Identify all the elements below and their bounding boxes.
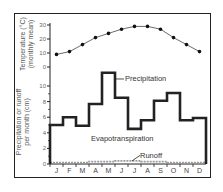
month-label: J bbox=[120, 167, 124, 174]
climate-chart: 01020300246810JFMAMJJASONDPrecipitationE… bbox=[0, 0, 223, 192]
temperature-tick-label: 30 bbox=[39, 22, 46, 28]
temperature-tick-label: 10 bbox=[39, 50, 46, 56]
temperature-tick-label: 0 bbox=[43, 64, 47, 70]
month-label: N bbox=[184, 167, 189, 174]
temperature-point bbox=[133, 25, 137, 29]
temperature-point bbox=[198, 50, 202, 54]
runoff-annotation: Runoff bbox=[140, 151, 163, 160]
temperature-point bbox=[107, 32, 111, 36]
month-label: A bbox=[93, 167, 98, 174]
precipitation-step-line bbox=[50, 73, 206, 164]
temperature-point bbox=[55, 53, 59, 57]
month-label: S bbox=[158, 167, 163, 174]
month-label: A bbox=[145, 167, 150, 174]
temperature-point bbox=[146, 25, 150, 29]
runoff-line bbox=[50, 161, 206, 163]
precipitation-tick-label: 10 bbox=[39, 83, 46, 89]
month-label: J bbox=[133, 167, 137, 174]
temperature-point bbox=[94, 36, 98, 40]
temperature-point bbox=[120, 27, 124, 31]
precipitation-annotation: Precipitation bbox=[125, 74, 166, 83]
temperature-point bbox=[68, 50, 72, 54]
evapotranspiration-annotation: Evapotranspiration bbox=[91, 134, 154, 143]
temperature-point bbox=[159, 27, 163, 31]
precipitation-tick-label: 6 bbox=[43, 114, 47, 120]
runoff-leader bbox=[132, 155, 140, 160]
month-label: F bbox=[67, 167, 71, 174]
temperature-point bbox=[185, 43, 189, 47]
precipitation-tick-label: 0 bbox=[43, 161, 47, 167]
precipitation-tick-label: 4 bbox=[43, 130, 47, 136]
temperature-tick-label: 20 bbox=[39, 36, 46, 42]
month-label: J bbox=[55, 167, 59, 174]
temperature-point bbox=[81, 43, 85, 47]
precipitation-tick-label: 8 bbox=[43, 99, 47, 105]
month-label: O bbox=[171, 167, 177, 174]
precipitation-tick-label: 2 bbox=[43, 145, 47, 151]
temperature-line bbox=[57, 26, 200, 54]
temperature-point bbox=[172, 36, 176, 40]
month-label: M bbox=[80, 167, 86, 174]
month-label: D bbox=[197, 167, 202, 174]
month-label: M bbox=[106, 167, 112, 174]
